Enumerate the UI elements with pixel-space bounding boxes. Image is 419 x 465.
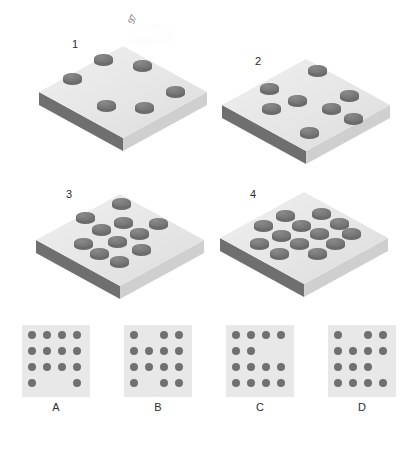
- option-dot: [160, 363, 168, 371]
- cylinder: [270, 248, 289, 263]
- cylinder: [312, 208, 331, 223]
- option-dot: [379, 379, 387, 387]
- cylinder-top: [108, 236, 127, 245]
- option-dot: [28, 379, 36, 387]
- cylinder-top: [63, 73, 82, 82]
- option-dot: [58, 347, 66, 355]
- option-dot-grid[interactable]: [124, 325, 192, 397]
- cylinder: [166, 86, 185, 101]
- cylinder-top: [130, 228, 149, 237]
- cylinder-top: [76, 212, 95, 221]
- option-dot: [145, 347, 153, 355]
- cylinder-top: [340, 90, 359, 99]
- option-dot: [277, 379, 285, 387]
- cylinder: [326, 238, 345, 253]
- option-dot: [247, 363, 255, 371]
- cylinder: [110, 256, 129, 271]
- option-dot: [160, 347, 168, 355]
- sequence-panels-section: 1234: [0, 0, 419, 320]
- option-dot: [130, 379, 138, 387]
- option-dot: [232, 331, 240, 339]
- cylinder-top: [310, 228, 329, 237]
- cylinder-group: [218, 55, 393, 180]
- cylinder: [130, 228, 149, 243]
- cylinder: [63, 73, 82, 88]
- cylinder-top: [254, 220, 273, 229]
- answer-option-c[interactable]: C: [226, 325, 296, 397]
- cylinder-top: [94, 54, 113, 63]
- cylinder: [94, 54, 113, 69]
- platform-panel-1: [35, 42, 220, 187]
- option-dot: [247, 331, 255, 339]
- option-dot: [232, 363, 240, 371]
- option-dot: [232, 379, 240, 387]
- option-dot: [175, 363, 183, 371]
- cylinder: [322, 103, 341, 118]
- option-dot: [73, 331, 81, 339]
- answer-option-b[interactable]: B: [124, 325, 194, 397]
- option-dot: [145, 363, 153, 371]
- cylinder-group: [216, 188, 391, 313]
- option-label-a: A: [22, 401, 90, 413]
- option-dot: [334, 331, 342, 339]
- cylinder-top: [308, 248, 327, 257]
- option-dot: [262, 331, 270, 339]
- cylinder-top: [326, 238, 345, 247]
- cylinder-top: [135, 102, 154, 111]
- option-dot-grid[interactable]: [22, 325, 90, 397]
- option-dot: [130, 363, 138, 371]
- cylinder: [149, 218, 168, 233]
- option-dot: [73, 363, 81, 371]
- option-dot: [43, 363, 51, 371]
- cylinder-top: [90, 248, 109, 257]
- option-dot-grid[interactable]: [226, 325, 294, 397]
- cylinder: [254, 220, 273, 235]
- cylinder: [308, 248, 327, 263]
- option-dot: [130, 347, 138, 355]
- cylinder: [132, 244, 151, 259]
- option-dot: [175, 347, 183, 355]
- cylinder: [112, 198, 131, 213]
- cylinder-top: [308, 65, 327, 74]
- option-dot: [247, 347, 255, 355]
- option-dot: [349, 379, 357, 387]
- option-dot: [28, 363, 36, 371]
- cylinder-top: [74, 238, 93, 247]
- option-dot-grid[interactable]: [328, 325, 396, 397]
- answer-option-a[interactable]: A: [22, 325, 92, 397]
- option-dot: [43, 347, 51, 355]
- cylinder: [344, 113, 363, 128]
- option-dot: [334, 363, 342, 371]
- cylinder: [250, 238, 269, 253]
- option-dot: [160, 379, 168, 387]
- cylinder-top: [312, 208, 331, 217]
- cylinder-top: [112, 198, 131, 207]
- answer-option-d[interactable]: D: [328, 325, 398, 397]
- option-dot: [364, 379, 372, 387]
- cylinder: [272, 230, 291, 245]
- cylinder-top: [114, 217, 133, 226]
- option-dot: [262, 379, 270, 387]
- cylinder-top: [110, 256, 129, 265]
- option-dot: [232, 347, 240, 355]
- option-label-b: B: [124, 401, 192, 413]
- cylinder-top: [166, 86, 185, 95]
- option-dot: [73, 379, 81, 387]
- cylinder-top: [97, 100, 116, 109]
- cylinder: [135, 102, 154, 117]
- cylinder-top: [288, 95, 307, 104]
- cylinder-group: [32, 190, 207, 315]
- cylinder: [262, 103, 281, 118]
- option-dot: [130, 331, 138, 339]
- option-dot: [28, 331, 36, 339]
- cylinder-top: [292, 220, 311, 229]
- cylinder: [108, 236, 127, 251]
- option-dot: [58, 331, 66, 339]
- cylinder: [292, 220, 311, 235]
- cylinder: [300, 127, 319, 142]
- option-dot: [364, 347, 372, 355]
- cylinder-top: [322, 103, 341, 112]
- option-dot: [247, 379, 255, 387]
- answer-options-section: ABCD: [0, 325, 419, 465]
- option-dot: [349, 363, 357, 371]
